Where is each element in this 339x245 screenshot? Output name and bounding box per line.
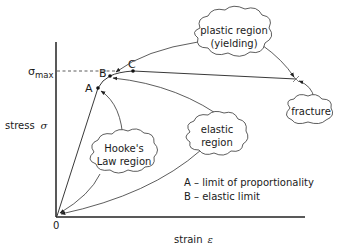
point-a-label: A bbox=[85, 82, 93, 95]
y-axis-label: stressσ bbox=[5, 120, 49, 131]
hookes-law-label-line2: Law region bbox=[97, 156, 152, 167]
stress-strain-diagram: A B C plastic region (yielding) fracture… bbox=[0, 0, 339, 245]
origin-label: 0 bbox=[53, 220, 59, 231]
plastic-region-label-line2: (yielding) bbox=[210, 38, 257, 49]
elastic-region-cloud: elastic region bbox=[186, 111, 248, 155]
fracture-cloud: fracture bbox=[286, 95, 332, 124]
point-b-dot bbox=[108, 74, 112, 78]
point-a-dot bbox=[96, 86, 100, 90]
plastic-region-cloud: plastic region (yielding) bbox=[194, 6, 271, 56]
legend-item-a: A – limit of proportionality bbox=[184, 177, 314, 188]
point-b-label: B bbox=[99, 67, 107, 80]
legend-item-b: B – elastic limit bbox=[184, 191, 260, 202]
elastic-region-label-line1: elastic bbox=[201, 124, 233, 135]
x-axis-label: strainε bbox=[174, 234, 213, 245]
elastic-region-label-line2: region bbox=[201, 137, 233, 148]
fracture-label: fracture bbox=[291, 106, 331, 117]
plastic-region-label-line1: plastic region bbox=[200, 25, 267, 36]
arrow-plastic-to-fracture bbox=[262, 45, 294, 77]
hookes-law-cloud: Hooke's Law region bbox=[90, 129, 158, 173]
point-c-label: C bbox=[128, 58, 136, 71]
hookes-law-label-line1: Hooke's bbox=[104, 143, 143, 154]
sigma-max-label: σmax bbox=[28, 65, 54, 80]
arrow-hookes-to-origin bbox=[60, 174, 100, 213]
